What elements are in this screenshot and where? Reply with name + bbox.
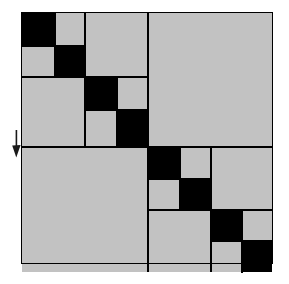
matrix-cell-q3-offdiag-right-light <box>212 148 272 209</box>
matrix-cell-bottom-left-block-light <box>22 148 147 272</box>
matrix-cell-q3-c-light <box>149 179 180 209</box>
matrix-cell-q1-offdiag-top-light <box>85 13 147 77</box>
matrix-cell-q1-a-dark <box>22 13 55 46</box>
matrix-separator-q2-inner-horizontal <box>84 109 147 111</box>
matrix-cell-q4-a-dark <box>212 211 242 241</box>
matrix-separator-q1-q2-vertical <box>84 13 86 146</box>
matrix-separator-q2-inner-vertical <box>116 76 118 146</box>
matrix-separator-main-vertical <box>147 13 149 272</box>
matrix-cell-q4-d-dark <box>242 241 272 272</box>
matrix-cell-q1-c-light <box>22 46 55 77</box>
matrix-separator-main-horizontal <box>22 146 272 148</box>
matrix-cell-q4-b-light <box>242 211 272 241</box>
matrix-cell-q1-b-light <box>55 13 85 46</box>
matrix-cell-q3-a-dark <box>149 148 180 179</box>
matrix-separator-q4-inner-horizontal <box>210 240 272 242</box>
matrix-cell-q1-d-dark <box>55 46 85 77</box>
matrix-cell-q2-a-dark <box>85 77 117 110</box>
matrix-plot-area[interactable] <box>22 13 272 263</box>
block-matrix-figure <box>0 0 289 284</box>
matrix-separator-q1-inner-horizontal <box>22 45 85 47</box>
down-arrow-marker <box>10 130 22 158</box>
matrix-cell-q4-c-light <box>212 241 242 272</box>
matrix-cell-q2-b-light <box>117 77 147 110</box>
matrix-cell-q2-c-light <box>85 110 117 146</box>
matrix-cell-top-right-block-light <box>149 13 272 144</box>
matrix-cell-q3-b-light <box>180 148 210 179</box>
matrix-separator-q3-inner-horizontal <box>147 178 210 180</box>
matrix-cell-q3-d-dark <box>180 179 210 209</box>
matrix-cell-q1-offdiag-left-light <box>22 77 85 146</box>
matrix-separator-q3-q4-horizontal <box>147 209 272 211</box>
matrix-cell-q2-d-dark <box>117 110 147 146</box>
matrix-cell-q3-offdiag-bottom-light <box>149 211 210 272</box>
